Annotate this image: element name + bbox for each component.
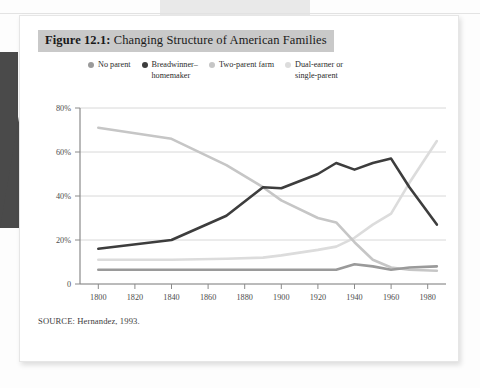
background-horizontal-rule [0, 13, 480, 14]
legend-marker-dot [88, 62, 94, 68]
legend-item: Dual-earner or single-parent [285, 60, 343, 82]
legend-item: Breadwinner– homemaker [142, 60, 198, 82]
x-axis-group: 1800182018401860188019001920194019601980 [80, 284, 446, 302]
series-line-breadwinner-homemaker [98, 159, 437, 249]
figure-number-label: Figure 12.1: [45, 33, 111, 47]
y-axis-tick-label: 40% [56, 192, 71, 201]
data-series-group [98, 128, 437, 271]
line-chart-svg: 020%40%60%80% 18001820184018601880190019… [20, 94, 460, 319]
legend-item-label: Dual-earner or single-parent [295, 60, 343, 82]
legend-marker-dot [209, 62, 215, 68]
x-axis-tick-label: 1800 [90, 293, 106, 302]
y-axis-tick-label: 80% [56, 104, 71, 113]
source-note: SOURCE: Hernandez, 1993. [38, 316, 140, 326]
y-axis-tick-label: 60% [56, 148, 71, 157]
figure-card: Figure 12.1: Changing Structure of Ameri… [19, 15, 459, 362]
legend-marker-dot [285, 62, 291, 68]
figure-title-text: Changing Structure of American Families [114, 33, 327, 47]
x-axis-tick-label: 1960 [383, 293, 399, 302]
figure-title: Figure 12.1: Changing Structure of Ameri… [38, 30, 334, 52]
legend-item-label: Breadwinner– homemaker [152, 60, 198, 82]
y-axis-tick-label: 20% [56, 236, 71, 245]
series-line-two-parent-farm [98, 128, 437, 271]
x-axis-tick-label: 1980 [420, 293, 436, 302]
x-axis-tick-label: 1940 [346, 293, 362, 302]
legend-item: No parent [88, 60, 131, 71]
x-axis-tick-label: 1880 [237, 293, 253, 302]
legend-item: Two-parent farm [209, 60, 274, 71]
x-axis-tick-label: 1900 [273, 293, 289, 302]
legend-marker-dot [142, 62, 148, 68]
legend-item-label: Two-parent farm [219, 60, 274, 71]
x-axis-tick-label: 1920 [310, 293, 326, 302]
x-axis-tick-label: 1840 [163, 293, 179, 302]
x-axis-tick-label: 1820 [127, 293, 143, 302]
chart-plot-area: 020%40%60%80% 18001820184018601880190019… [20, 94, 460, 319]
y-axis-tick-label: 0 [67, 280, 71, 289]
legend-item-label: No parent [98, 60, 131, 71]
chart-legend: No parentBreadwinner– homemakerTwo-paren… [88, 60, 438, 82]
x-axis-tick-label: 1860 [200, 293, 216, 302]
y-axis-group: 020%40%60%80% [56, 104, 80, 289]
